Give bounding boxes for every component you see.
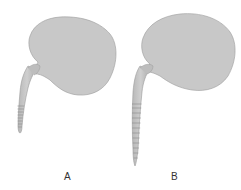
specimen-b-body	[142, 14, 235, 91]
panel-label-a: A	[64, 171, 71, 182]
specimen-b	[132, 14, 235, 166]
specimen-b-tail	[132, 66, 149, 166]
specimen-figure: A B	[0, 0, 241, 190]
specimen-a	[18, 17, 117, 133]
specimen-a-body	[29, 17, 116, 95]
panel-label-b: B	[171, 171, 178, 182]
specimen-illustration	[0, 0, 241, 190]
specimen-a-tail	[18, 66, 36, 133]
